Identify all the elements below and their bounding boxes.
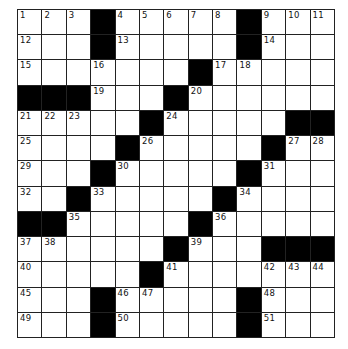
answer-cell[interactable] xyxy=(116,212,139,236)
answer-cell[interactable] xyxy=(91,212,114,236)
answer-cell[interactable] xyxy=(42,313,65,337)
answer-cell[interactable] xyxy=(213,288,236,312)
answer-cell[interactable]: 19 xyxy=(91,86,114,110)
answer-cell[interactable] xyxy=(189,288,212,312)
answer-cell[interactable] xyxy=(116,86,139,110)
answer-cell[interactable] xyxy=(286,60,309,84)
answer-cell[interactable]: 43 xyxy=(286,262,309,286)
answer-cell[interactable]: 49 xyxy=(18,313,41,337)
answer-cell[interactable]: 23 xyxy=(67,111,90,135)
answer-cell[interactable] xyxy=(189,111,212,135)
answer-cell[interactable]: 44 xyxy=(311,262,334,286)
answer-cell[interactable] xyxy=(286,86,309,110)
answer-cell[interactable] xyxy=(116,237,139,261)
answer-cell[interactable] xyxy=(67,313,90,337)
answer-cell[interactable] xyxy=(164,161,187,185)
answer-cell[interactable]: 15 xyxy=(18,60,41,84)
answer-cell[interactable] xyxy=(67,161,90,185)
answer-cell[interactable] xyxy=(286,187,309,211)
answer-cell[interactable]: 48 xyxy=(262,288,285,312)
answer-cell[interactable] xyxy=(189,161,212,185)
answer-cell[interactable] xyxy=(189,262,212,286)
answer-cell[interactable] xyxy=(164,288,187,312)
answer-cell[interactable] xyxy=(213,111,236,135)
answer-cell[interactable]: 29 xyxy=(18,161,41,185)
answer-cell[interactable] xyxy=(213,313,236,337)
answer-cell[interactable] xyxy=(140,35,163,59)
answer-cell[interactable]: 38 xyxy=(42,237,65,261)
answer-cell[interactable] xyxy=(140,237,163,261)
answer-cell[interactable]: 33 xyxy=(91,187,114,211)
answer-cell[interactable]: 50 xyxy=(116,313,139,337)
answer-cell[interactable] xyxy=(262,212,285,236)
answer-cell[interactable] xyxy=(140,86,163,110)
answer-cell[interactable] xyxy=(140,212,163,236)
answer-cell[interactable] xyxy=(67,60,90,84)
answer-cell[interactable] xyxy=(237,212,260,236)
answer-cell[interactable]: 21 xyxy=(18,111,41,135)
answer-cell[interactable] xyxy=(213,86,236,110)
answer-cell[interactable]: 39 xyxy=(189,237,212,261)
answer-cell[interactable] xyxy=(262,187,285,211)
answer-cell[interactable] xyxy=(67,262,90,286)
answer-cell[interactable]: 5 xyxy=(140,10,163,34)
answer-cell[interactable] xyxy=(213,161,236,185)
answer-cell[interactable] xyxy=(164,313,187,337)
answer-cell[interactable] xyxy=(91,136,114,160)
answer-cell[interactable] xyxy=(311,60,334,84)
answer-cell[interactable]: 41 xyxy=(164,262,187,286)
answer-cell[interactable] xyxy=(164,35,187,59)
answer-cell[interactable]: 3 xyxy=(67,10,90,34)
answer-cell[interactable] xyxy=(189,313,212,337)
answer-cell[interactable] xyxy=(164,187,187,211)
answer-cell[interactable]: 47 xyxy=(140,288,163,312)
answer-cell[interactable]: 17 xyxy=(213,60,236,84)
answer-cell[interactable] xyxy=(311,288,334,312)
answer-cell[interactable]: 28 xyxy=(311,136,334,160)
answer-cell[interactable] xyxy=(311,161,334,185)
answer-cell[interactable]: 7 xyxy=(189,10,212,34)
answer-cell[interactable] xyxy=(286,35,309,59)
answer-cell[interactable] xyxy=(311,86,334,110)
answer-cell[interactable]: 35 xyxy=(67,212,90,236)
answer-cell[interactable] xyxy=(237,86,260,110)
answer-cell[interactable] xyxy=(164,212,187,236)
answer-cell[interactable] xyxy=(140,60,163,84)
answer-cell[interactable] xyxy=(213,136,236,160)
answer-cell[interactable]: 8 xyxy=(213,10,236,34)
answer-cell[interactable]: 25 xyxy=(18,136,41,160)
answer-cell[interactable] xyxy=(213,237,236,261)
answer-cell[interactable] xyxy=(42,262,65,286)
answer-cell[interactable] xyxy=(140,161,163,185)
answer-cell[interactable] xyxy=(286,288,309,312)
answer-cell[interactable] xyxy=(42,136,65,160)
answer-cell[interactable]: 46 xyxy=(116,288,139,312)
answer-cell[interactable] xyxy=(91,111,114,135)
answer-cell[interactable] xyxy=(140,313,163,337)
answer-cell[interactable]: 9 xyxy=(262,10,285,34)
answer-cell[interactable] xyxy=(42,161,65,185)
answer-cell[interactable] xyxy=(262,111,285,135)
answer-cell[interactable] xyxy=(213,35,236,59)
answer-cell[interactable] xyxy=(311,212,334,236)
answer-cell[interactable] xyxy=(67,35,90,59)
answer-cell[interactable] xyxy=(42,187,65,211)
answer-cell[interactable]: 24 xyxy=(164,111,187,135)
answer-cell[interactable]: 27 xyxy=(286,136,309,160)
answer-cell[interactable]: 40 xyxy=(18,262,41,286)
answer-cell[interactable] xyxy=(164,136,187,160)
answer-cell[interactable] xyxy=(116,111,139,135)
answer-cell[interactable]: 32 xyxy=(18,187,41,211)
answer-cell[interactable] xyxy=(237,111,260,135)
answer-cell[interactable]: 16 xyxy=(91,60,114,84)
answer-cell[interactable] xyxy=(189,136,212,160)
answer-cell[interactable] xyxy=(116,262,139,286)
answer-cell[interactable] xyxy=(116,187,139,211)
answer-cell[interactable]: 2 xyxy=(42,10,65,34)
answer-cell[interactable]: 20 xyxy=(189,86,212,110)
answer-cell[interactable] xyxy=(286,313,309,337)
answer-cell[interactable]: 22 xyxy=(42,111,65,135)
answer-cell[interactable] xyxy=(286,212,309,236)
answer-cell[interactable] xyxy=(286,161,309,185)
answer-cell[interactable]: 45 xyxy=(18,288,41,312)
